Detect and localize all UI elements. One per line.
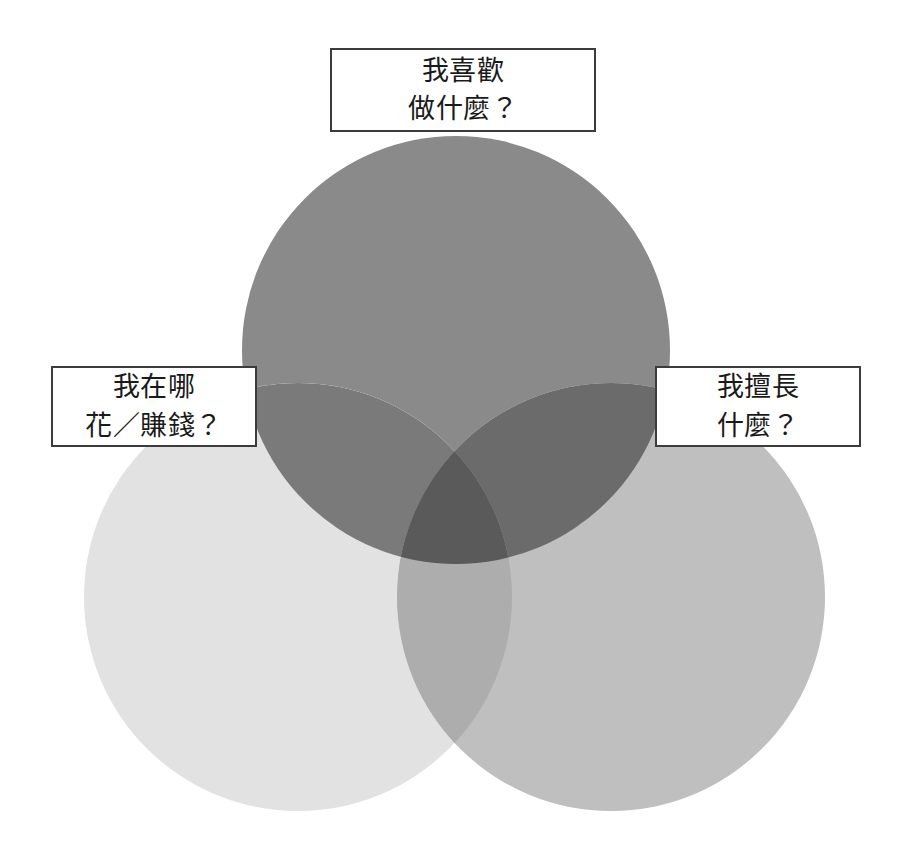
label-interest-line2: 做什麼？ xyxy=(408,90,518,128)
label-money-line2: 花／賺錢？ xyxy=(85,407,223,445)
venn-diagram-canvas: 我喜歡 做什麼？ 我在哪 花／賺錢？ 我擅長 什麼？ xyxy=(0,0,905,862)
label-interest-line1: 我喜歡 xyxy=(422,52,505,90)
label-box-skill: 我擅長 什麼？ xyxy=(655,366,861,447)
label-money-line1: 我在哪 xyxy=(113,368,196,406)
label-skill-line2: 什麼？ xyxy=(717,407,800,445)
label-box-interest: 我喜歡 做什麼？ xyxy=(330,48,596,132)
label-skill-line1: 我擅長 xyxy=(717,368,800,406)
label-box-money: 我在哪 花／賺錢？ xyxy=(51,366,257,447)
